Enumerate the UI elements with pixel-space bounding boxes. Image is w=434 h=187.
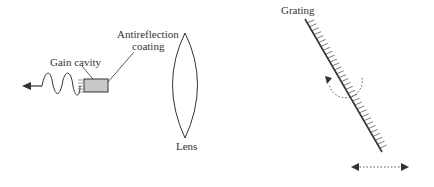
gain-cavity-label: Gain cavity [50, 56, 102, 68]
translation-arrow [351, 163, 409, 171]
output-arrow [22, 82, 42, 90]
gain-cavity [84, 79, 108, 92]
antireflection-leader [108, 52, 134, 82]
grating-teeth [307, 20, 386, 148]
grating-label: Grating [281, 4, 315, 16]
cavity-mirror-hatch [78, 80, 83, 92]
antireflection-label-line2: coating [132, 40, 165, 52]
lens [173, 33, 198, 138]
external-cavity-laser-diagram: Gain cavity Antireflection coating Lens … [0, 0, 434, 187]
lens-label: Lens [176, 140, 197, 152]
antireflection-label-line1: Antireflection [117, 28, 179, 40]
light-wave [42, 73, 80, 95]
